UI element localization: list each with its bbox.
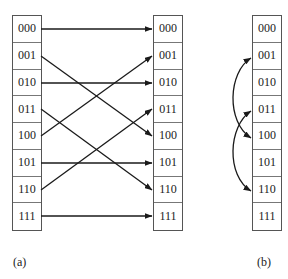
- shuffle-arrows: [41, 29, 152, 216]
- connection-arrows: [0, 0, 288, 279]
- panel-a-label: (a): [13, 255, 26, 270]
- swap-arcs: [233, 58, 251, 191]
- panel-b-label: (b): [257, 255, 271, 270]
